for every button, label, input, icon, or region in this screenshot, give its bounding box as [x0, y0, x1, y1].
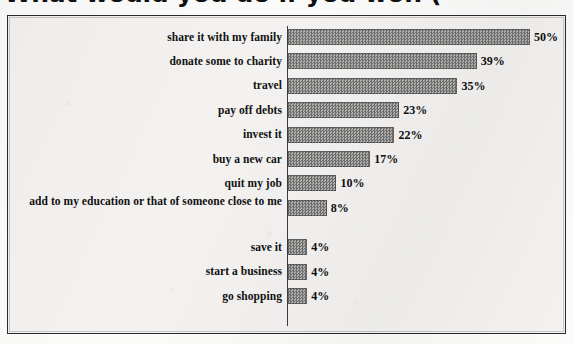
- bar-value-label: 50%: [534, 30, 558, 45]
- category-label: donate some to charity: [12, 55, 282, 68]
- bar-value-label: 35%: [461, 79, 485, 94]
- page-title-clip: What would you do if you won (: [0, 0, 573, 13]
- plot-area: share it with my family50%donate some to…: [8, 16, 565, 333]
- chart-frame: share it with my family50%donate some to…: [7, 15, 566, 334]
- bar: [288, 53, 477, 69]
- bar: [288, 29, 530, 45]
- bar-value-label: 39%: [481, 54, 505, 69]
- chart-row: share it with my family50%: [8, 28, 565, 46]
- category-label: pay off debts: [12, 104, 282, 117]
- chart-row: go shopping4%: [8, 287, 565, 305]
- bar-value-label: 17%: [374, 152, 398, 167]
- category-label: share it with my family: [12, 31, 282, 44]
- bar: [288, 102, 399, 118]
- bar: [288, 78, 457, 94]
- bar: [288, 175, 336, 191]
- chart-row: donate some to charity39%: [8, 52, 565, 70]
- category-label: buy a new car: [12, 153, 282, 166]
- bar-value-label: 10%: [340, 176, 364, 191]
- bar: [288, 127, 394, 143]
- category-label: quit my job: [12, 177, 282, 190]
- chart-row: invest it22%: [8, 126, 565, 144]
- bar-value-label: 4%: [311, 265, 329, 280]
- category-label: start a business: [12, 265, 282, 278]
- bar-value-label: 4%: [311, 240, 329, 255]
- survey-chart-screenshot: What would you do if you won ( share it …: [0, 0, 573, 344]
- chart-row: travel35%: [8, 77, 565, 95]
- chart-row: quit my job10%: [8, 174, 565, 192]
- bar-value-label: 23%: [403, 103, 427, 118]
- category-label: add to my education or that of someone c…: [12, 195, 282, 208]
- bar-value-label: 22%: [398, 128, 422, 143]
- bar: [288, 288, 307, 304]
- chart-row: buy a new car17%: [8, 150, 565, 168]
- bar: [288, 264, 307, 280]
- bar: [288, 200, 327, 216]
- category-label: save it: [12, 241, 282, 254]
- chart-row: save it4%: [8, 238, 565, 256]
- bar-value-label: 8%: [331, 201, 349, 216]
- chart-row: start a business4%: [8, 263, 565, 281]
- category-label: go shopping: [12, 290, 282, 303]
- chart-row: pay off debts23%: [8, 101, 565, 119]
- chart-row: add to my education or that of someone c…: [8, 199, 565, 217]
- category-label: travel: [12, 79, 282, 92]
- bar-value-label: 4%: [311, 289, 329, 304]
- page-title: What would you do if you won (: [4, 0, 441, 8]
- bar: [288, 239, 307, 255]
- category-label: invest it: [12, 128, 282, 141]
- bar: [288, 151, 370, 167]
